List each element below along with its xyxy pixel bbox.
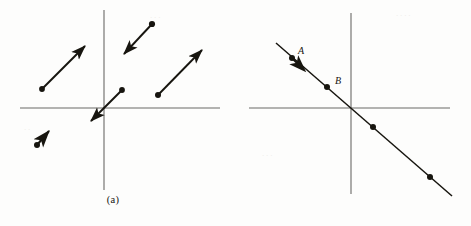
vector-shaft <box>124 24 152 54</box>
point-dot <box>370 124 376 130</box>
panel-a: (a) <box>0 0 236 226</box>
right-vector <box>155 50 202 98</box>
point-dot <box>427 174 433 180</box>
vector-shaft <box>158 50 202 95</box>
top-middle-vector <box>124 21 155 54</box>
origin-vector <box>91 87 125 121</box>
upper-left-vector <box>39 46 85 92</box>
point-b-dot <box>324 84 330 90</box>
vector-shaft <box>91 90 122 121</box>
panel-b-plot <box>236 0 471 226</box>
figure-container: · · · · · · · · · · · · <box>0 0 471 226</box>
vector-tail-dot <box>119 87 125 93</box>
panel-a-caption: (a) <box>93 194 133 205</box>
vector-tail-dot <box>39 86 45 92</box>
panel-a-plot <box>0 0 236 226</box>
vector-shaft <box>42 46 85 89</box>
vector-tail-dot <box>149 21 155 27</box>
vector-tail-dot <box>34 142 40 148</box>
solution-line <box>276 43 452 196</box>
point-b-label: B <box>335 75 341 86</box>
lower-left-vector <box>34 131 49 148</box>
point-a-dot <box>289 55 295 61</box>
point-a-label: A <box>298 45 304 56</box>
panel-b: A B (b) <box>236 0 471 226</box>
vector-tail-dot <box>155 92 161 98</box>
